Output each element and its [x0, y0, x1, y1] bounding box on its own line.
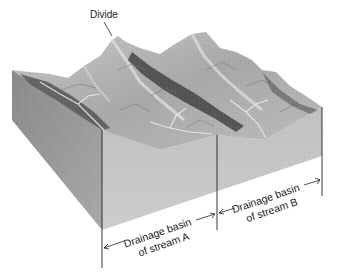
drainage-basin-diagram: Divide Drainage basin of stream A Draina… — [0, 0, 337, 277]
divide-label: Divide — [90, 9, 118, 20]
basin-b-annotation: Drainage basin of stream B — [230, 181, 305, 228]
basin-a-annotation: Drainage basin of stream A — [122, 215, 197, 262]
divide-leader-line — [104, 22, 112, 36]
